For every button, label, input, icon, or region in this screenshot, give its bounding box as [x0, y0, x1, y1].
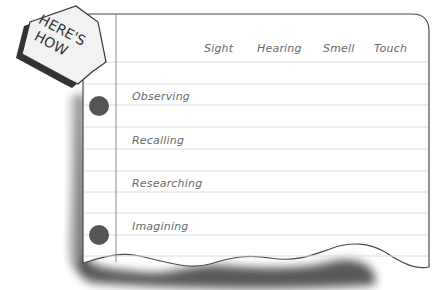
row-label-imagining: Imagining: [132, 220, 189, 233]
binder-hole-top: [89, 96, 109, 116]
binder-hole-bottom: [89, 225, 109, 245]
column-header-sight: Sight: [204, 42, 233, 55]
row-label-recalling: Recalling: [132, 134, 184, 147]
column-header-hearing: Hearing: [257, 42, 302, 55]
column-header-touch: Touch: [374, 42, 407, 55]
notebook-worksheet: HERE'S HOW Sight Hearing Smell Touch Obs…: [0, 0, 441, 290]
column-header-smell: Smell: [323, 42, 355, 55]
row-label-observing: Observing: [132, 90, 190, 103]
row-label-researching: Researching: [132, 177, 202, 190]
